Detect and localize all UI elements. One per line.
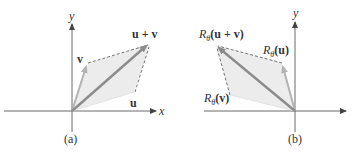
label-u-plus-v: u + v — [132, 27, 158, 41]
label-r-u-plus-v-arg: (u + v) — [210, 27, 244, 41]
diagram-canvas: y x v u u + v (a) y Rθ(u + v) Rθ(u) Rθ(v… — [0, 0, 352, 155]
label-r-v-arg: (v) — [215, 91, 229, 105]
label-r-u-arg: (u) — [274, 43, 289, 57]
label-r-u-plus-v: Rθ(u + v) — [198, 27, 244, 43]
label-v: v — [77, 52, 83, 66]
caption-a: (a) — [64, 132, 77, 146]
panel-b: y Rθ(u + v) Rθ(u) Rθ(v) (b) — [198, 6, 346, 146]
y-axis-label-a: y — [68, 9, 75, 23]
panel-a: y x v u u + v (a) — [4, 9, 165, 146]
caption-b: (b) — [288, 132, 302, 146]
x-axis-label-a: x — [158, 104, 165, 118]
label-u: u — [130, 96, 137, 110]
label-r-v: Rθ(v) — [203, 91, 229, 107]
label-r-u: Rθ(u) — [262, 43, 289, 59]
y-axis-label-b: y — [292, 6, 299, 20]
